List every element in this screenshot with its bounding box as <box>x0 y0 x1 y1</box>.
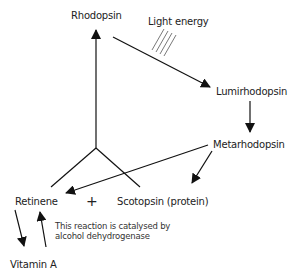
label-light-energy: Light energy <box>148 16 209 27</box>
node-lumirhodopsin: Lumirhodopsin <box>216 86 287 97</box>
arrow-rhodopsin-lumirhodopsin <box>113 37 210 87</box>
fork-left <box>51 148 96 187</box>
node-scotopsin: Scotopsin (protein) <box>117 196 208 207</box>
visual-cycle-diagram: Rhodopsin Light energy Lumirhodopsin Met… <box>0 0 301 278</box>
node-rhodopsin: Rhodopsin <box>71 10 122 21</box>
node-retinene: Retinene <box>15 196 58 207</box>
node-vitamin-a: Vitamin A <box>10 259 57 270</box>
plus-sign: + <box>86 193 98 209</box>
light-rays-icon <box>152 29 176 56</box>
arrow-metarhodopsin-scotopsin <box>192 151 212 183</box>
node-metarhodopsin: Metarhodopsin <box>213 139 285 150</box>
annotation-catalyst: This reaction is catalysed by alcohol de… <box>55 221 170 241</box>
arrow-vitamin-a-retinene <box>40 212 46 247</box>
arrow-retinene-vitamin-a <box>15 210 24 246</box>
arrow-metarhodopsin-retinene <box>66 145 208 193</box>
